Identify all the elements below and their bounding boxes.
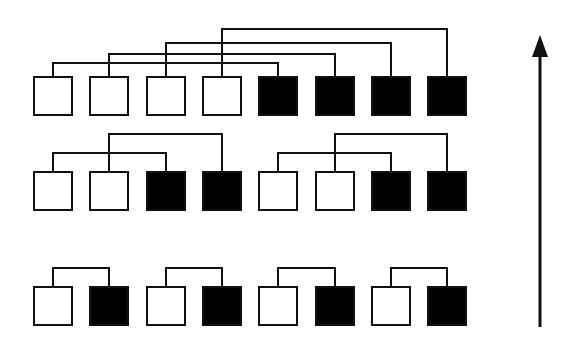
filled-square [316, 77, 354, 115]
filled-square [428, 172, 466, 210]
filled-square [90, 287, 128, 325]
row-stage-3-top [34, 77, 466, 115]
filled-square [203, 287, 241, 325]
open-square [259, 287, 297, 325]
filled-square [203, 172, 241, 210]
open-square [34, 77, 72, 115]
bracket-link [391, 268, 447, 287]
open-square [90, 172, 128, 210]
open-square [34, 287, 72, 325]
filled-square [372, 77, 410, 115]
open-square [372, 287, 410, 325]
bracket-link [166, 268, 222, 287]
pairing-diagram [0, 0, 573, 344]
open-square [90, 77, 128, 115]
open-square [147, 287, 185, 325]
bracket-link [53, 268, 109, 287]
open-square [34, 172, 72, 210]
row-stage-2-middle [34, 172, 466, 210]
open-square [203, 77, 241, 115]
filled-square [147, 172, 185, 210]
filled-square [428, 77, 466, 115]
filled-square [259, 77, 297, 115]
up-arrow-icon [532, 35, 548, 327]
row-stage-1-bottom [34, 287, 466, 325]
node-squares [34, 77, 466, 325]
bracket-link [278, 268, 335, 287]
open-square [316, 172, 354, 210]
arrow-head [532, 35, 548, 57]
filled-square [316, 287, 354, 325]
open-square [259, 172, 297, 210]
filled-square [428, 287, 466, 325]
connection-lines [53, 29, 447, 287]
filled-square [372, 172, 410, 210]
open-square [147, 77, 185, 115]
